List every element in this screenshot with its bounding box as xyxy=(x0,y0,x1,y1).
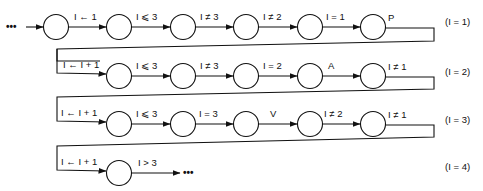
edge-label: I ≠ 3 xyxy=(200,11,218,22)
state-node xyxy=(107,112,132,137)
state-node xyxy=(298,15,323,40)
state-node xyxy=(298,112,323,137)
end-ellipsis: ••• xyxy=(183,167,194,178)
edge-label: I = 2 xyxy=(263,60,282,71)
edge-label: I ← 1 xyxy=(74,11,97,22)
row-4: I ← I + 1 I > 3 ••• (I = 4) xyxy=(61,156,470,186)
state-node xyxy=(361,15,386,40)
state-node xyxy=(361,64,386,89)
edge-label: I ≠ 1 xyxy=(388,61,406,72)
edge-label: I > 3 xyxy=(138,157,157,168)
state-node xyxy=(107,64,132,89)
edge-label: I ⩽ 3 xyxy=(136,108,157,119)
edge-label: I ← I + 1 xyxy=(61,156,97,167)
state-node xyxy=(171,112,196,137)
state-node xyxy=(171,15,196,40)
row-label: (I = 2) xyxy=(445,66,470,77)
row-label: (I = 3) xyxy=(445,114,470,125)
state-node xyxy=(361,112,386,137)
edge-label: V xyxy=(270,108,277,119)
state-node xyxy=(234,15,259,40)
edge-label: I ⩽ 3 xyxy=(136,11,157,22)
row-2: I ← I + 1 I ⩽ 3 I ≠ 3 I = 2 A I ≠ 1 (I =… xyxy=(57,49,470,89)
edge-label: I ← I + 1 xyxy=(61,107,97,118)
row-3: I ← I + 1 I ⩽ 3 I = 3 V I ≠ 2 I ≠ 1 (I =… xyxy=(61,107,470,137)
row-label: (I = 1) xyxy=(445,16,470,27)
state-node xyxy=(107,161,132,186)
state-node xyxy=(171,64,196,89)
state-node xyxy=(234,64,259,89)
edge-label: I ≠ 2 xyxy=(324,108,342,119)
edge-label: I ← I + 1 xyxy=(63,59,99,70)
state-node xyxy=(298,64,323,89)
edge-label: I ≠ 3 xyxy=(200,60,218,71)
row-1: ••• I ← 1 I ⩽ 3 I ≠ 3 I ≠ 2 I = 1 P (I =… xyxy=(6,11,470,40)
state-node xyxy=(44,15,69,40)
edge-label: I = 3 xyxy=(199,108,218,119)
edge-label: I ⩽ 3 xyxy=(136,60,157,71)
automaton-diagram: ••• I ← 1 I ⩽ 3 I ≠ 3 I ≠ 2 I = 1 P (I =… xyxy=(0,0,483,191)
state-node xyxy=(107,15,132,40)
row-label: (I = 4) xyxy=(445,161,470,172)
edge-label: P xyxy=(388,12,394,23)
edge-label: A xyxy=(328,60,335,71)
edge-label: I ≠ 2 xyxy=(263,11,281,22)
edge-label: I ≠ 1 xyxy=(388,109,406,120)
start-ellipsis: ••• xyxy=(6,21,17,32)
edge-label: I = 1 xyxy=(326,11,345,22)
state-node xyxy=(234,112,259,137)
